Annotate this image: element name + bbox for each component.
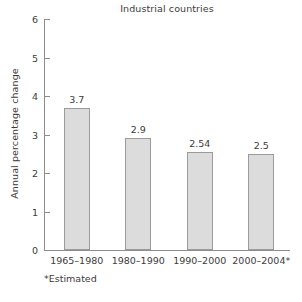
footnote: *Estimated [44, 273, 97, 284]
y-tick-mark [45, 96, 50, 97]
y-tick-label: 0 [32, 245, 38, 256]
y-tick-mark [45, 250, 50, 251]
bar-value-label: 2.5 [254, 140, 269, 151]
y-tick-mark [45, 212, 50, 213]
y-tick-label: 2 [32, 168, 38, 179]
y-tick-mark [45, 19, 50, 20]
y-tick-mark [45, 135, 50, 136]
y-tick-label: 1 [32, 206, 38, 217]
x-tick-label: 1965–1980 [50, 255, 103, 266]
y-tick-mark [45, 173, 50, 174]
chart-figure: Industrial countries Annual percentage c… [0, 0, 302, 302]
plot-area: 0123456 3.72.92.542.5 1965–19801980–1990… [44, 19, 290, 250]
x-tick-label: 1980–1990 [112, 255, 165, 266]
bar: 3.7 [64, 108, 90, 250]
y-tick-label: 3 [32, 129, 38, 140]
x-tick-label: 2000–2004* [232, 255, 290, 266]
y-axis-title: Annual percentage change [9, 34, 20, 234]
y-tick-label: 5 [32, 52, 38, 63]
bar: 2.54 [187, 152, 213, 250]
bar: 2.5 [248, 154, 274, 250]
y-tick-mark [45, 58, 50, 59]
bar-value-label: 2.9 [131, 124, 146, 135]
y-tick-label: 4 [32, 91, 38, 102]
y-tick-label: 6 [32, 14, 38, 25]
bar: 2.9 [125, 138, 151, 250]
x-tick-label: 1990–2000 [173, 255, 226, 266]
bar-value-label: 3.7 [69, 94, 84, 105]
chart-title: Industrial countries [44, 3, 290, 14]
x-axis-line [44, 250, 290, 251]
bar-value-label: 2.54 [189, 138, 210, 149]
